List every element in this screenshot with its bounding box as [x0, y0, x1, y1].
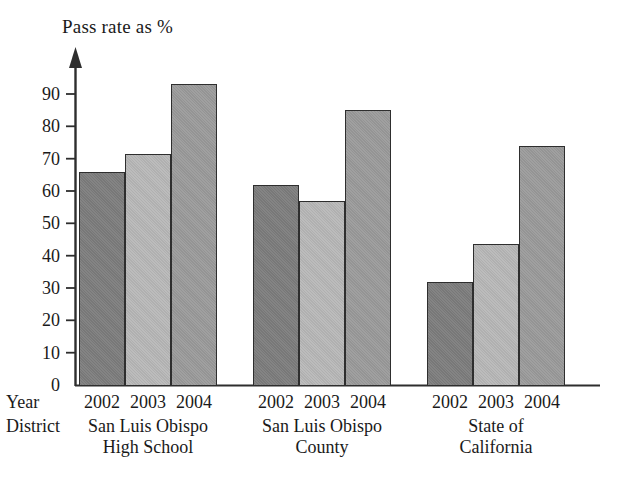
bar-group2-2004	[345, 110, 391, 386]
y-tick-label-90: 90	[26, 85, 60, 103]
group-caption-line-2: High School	[69, 437, 227, 458]
bar-group2-2003	[299, 201, 345, 386]
row-label-year: Year	[6, 392, 39, 412]
y-tick-label-40: 40	[26, 247, 60, 265]
bar-group1-2003	[125, 154, 171, 386]
year-label-group1-2003: 2003	[125, 392, 171, 412]
y-tick-label-30: 30	[26, 279, 60, 297]
y-tick-label-20: 20	[26, 311, 60, 329]
y-tick-label-50: 50	[26, 214, 60, 232]
group-caption-line-2: California	[417, 437, 575, 458]
bar-group1-2002	[79, 172, 125, 386]
year-label-group1-2004: 2004	[171, 392, 217, 412]
axis-arrow-up-icon	[69, 47, 82, 68]
group-caption-slo-county: San Luis Obispo County	[243, 416, 401, 458]
bar-chart: Pass rate as % 0 10 20 30 40 50 60 70 80…	[0, 0, 618, 491]
bar-group2-2002	[253, 185, 299, 387]
year-label-group3-2002: 2002	[427, 392, 473, 412]
year-label-group3-2003: 2003	[473, 392, 519, 412]
y-tick-label-70: 70	[26, 150, 60, 168]
group-caption-slo-high-school: San Luis Obispo High School	[69, 416, 227, 458]
group-caption-line-2: County	[243, 437, 401, 458]
row-label-district: District	[6, 416, 60, 436]
bar-group3-2003	[473, 244, 519, 386]
year-label-group1-2002: 2002	[79, 392, 125, 412]
year-label-group2-2003: 2003	[299, 392, 345, 412]
year-label-group2-2002: 2002	[253, 392, 299, 412]
bar-group3-2002	[427, 282, 473, 387]
group-caption-state-of-california: State of California	[417, 416, 575, 458]
bar-group3-2004	[519, 146, 565, 386]
year-label-group3-2004: 2004	[519, 392, 565, 412]
group-caption-line-1: State of	[417, 416, 575, 437]
chart-title: Pass rate as %	[62, 16, 173, 38]
group-caption-line-1: San Luis Obispo	[69, 416, 227, 437]
y-tick-label-80: 80	[26, 117, 60, 135]
bar-group1-2004	[171, 84, 217, 386]
y-tick-label-10: 10	[26, 344, 60, 362]
y-tick-label-60: 60	[26, 182, 60, 200]
year-label-group2-2004: 2004	[345, 392, 391, 412]
group-caption-line-1: San Luis Obispo	[243, 416, 401, 437]
